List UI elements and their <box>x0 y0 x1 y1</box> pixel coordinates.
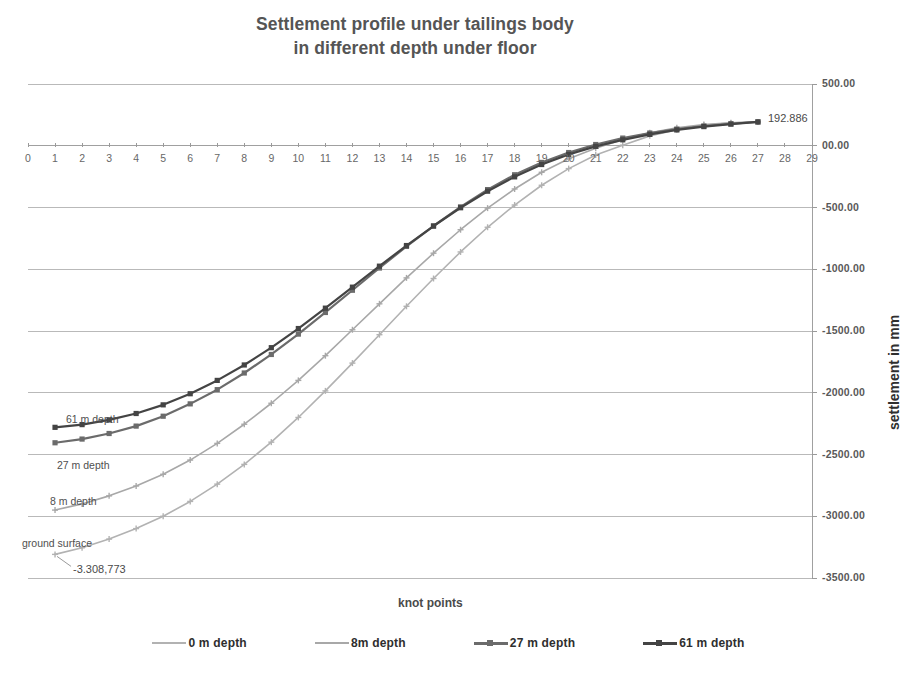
series-marker <box>242 362 247 367</box>
series-line <box>55 122 758 427</box>
series-marker <box>161 414 166 419</box>
series-line <box>55 122 758 443</box>
x-axis-tick-label: 24 <box>667 152 687 164</box>
y-axis-tick-label: -500.00 <box>822 201 859 213</box>
series-annotation: 27 m depth <box>57 459 110 471</box>
series-marker <box>323 306 328 311</box>
annotation-leader-line <box>57 556 71 566</box>
y-axis-tick-label: 500.00 <box>822 77 855 89</box>
series-marker <box>485 189 490 194</box>
legend-key-icon <box>152 637 186 649</box>
series-marker <box>593 144 598 149</box>
series-marker <box>52 507 58 513</box>
x-axis-tick-label: 14 <box>396 152 416 164</box>
series-3 <box>52 119 760 445</box>
data-point-label: 192.886 <box>768 112 808 124</box>
series-marker <box>188 391 193 396</box>
series-marker <box>377 264 382 269</box>
legend-key-icon <box>315 637 349 649</box>
series-marker <box>458 205 463 210</box>
x-axis-tick-label: 17 <box>478 152 498 164</box>
series-marker <box>107 431 112 436</box>
series-layer <box>52 119 761 557</box>
x-axis-tick-label: 2 <box>72 152 92 164</box>
x-axis-tick-label: 6 <box>180 152 200 164</box>
series-4 <box>52 119 760 430</box>
series-marker <box>269 352 274 357</box>
series-marker <box>728 122 733 127</box>
x-axis-tick-label: 18 <box>505 152 525 164</box>
x-axis-tick-label: 9 <box>261 152 281 164</box>
series-marker <box>620 142 626 148</box>
legend-key-icon <box>474 637 508 649</box>
y-axis-tick-label: -1000.00 <box>822 262 865 274</box>
series-marker <box>160 513 166 519</box>
series-annotation: 8 m depth <box>50 495 97 507</box>
annotation-leader-lines <box>57 556 71 566</box>
x-axis-tick-label: 7 <box>207 152 227 164</box>
series-marker <box>647 132 652 137</box>
series-marker <box>133 526 139 532</box>
x-axis-tick-label: 28 <box>775 152 795 164</box>
series-marker <box>106 493 112 499</box>
x-axis-tickmarks <box>28 143 812 147</box>
x-axis-tick-label: 25 <box>694 152 714 164</box>
y-axis-tick-label: -1500.00 <box>822 324 865 336</box>
series-marker <box>620 137 625 142</box>
series-marker <box>79 436 84 441</box>
series-marker <box>134 423 139 428</box>
series-marker <box>431 223 436 228</box>
y-axis-tick-label: -3000.00 <box>822 509 865 521</box>
series-marker <box>404 243 409 248</box>
x-axis-tick-label: 22 <box>613 152 633 164</box>
series-marker <box>296 331 301 336</box>
legend-item-4[interactable]: 61 m depth <box>643 636 744 650</box>
x-axis-tick-label: 15 <box>424 152 444 164</box>
series-marker <box>188 401 193 406</box>
series-marker <box>106 536 112 542</box>
x-axis-tick-label: 13 <box>369 152 389 164</box>
x-axis-tick-label: 0 <box>18 152 38 164</box>
x-axis-tick-label: 26 <box>721 152 741 164</box>
y-axis-tick-label: -2500.00 <box>822 448 865 460</box>
x-axis-tick-label: 12 <box>342 152 362 164</box>
legend-label: 61 m depth <box>679 636 744 650</box>
series-marker <box>296 326 301 331</box>
series-marker <box>161 402 166 407</box>
series-marker <box>701 124 706 129</box>
data-point-label: -3.308,773 <box>73 563 126 575</box>
x-axis-tick-label: 19 <box>532 152 552 164</box>
legend-item-2[interactable]: 8m depth <box>315 636 406 650</box>
x-axis-tick-label: 1 <box>45 152 65 164</box>
series-marker <box>512 174 517 179</box>
legend-item-3[interactable]: 27 m depth <box>474 636 575 650</box>
y-axis-title: settlement in mm <box>886 315 902 430</box>
x-axis-tick-label: 16 <box>451 152 471 164</box>
x-axis-tick-label: 5 <box>153 152 173 164</box>
y-axis-tick-label: -2000.00 <box>822 386 865 398</box>
x-axis-tick-label: 3 <box>99 152 119 164</box>
legend-key-icon <box>643 637 677 649</box>
x-axis-tick-label: 23 <box>640 152 660 164</box>
legend-label: 27 m depth <box>510 636 575 650</box>
x-axis-tick-label: 20 <box>559 152 579 164</box>
x-axis-tick-label: 4 <box>126 152 146 164</box>
series-annotation: ground surface <box>22 537 92 549</box>
series-marker <box>160 471 166 477</box>
series-2 <box>52 119 761 513</box>
legend-label: 0 m depth <box>188 636 246 650</box>
series-marker <box>674 127 679 132</box>
y-axis-tick-label: -3500.00 <box>822 571 865 583</box>
series-marker <box>134 411 139 416</box>
series-1 <box>52 119 761 557</box>
series-marker <box>215 378 220 383</box>
series-marker <box>52 440 57 445</box>
x-axis-tick-label: 21 <box>586 152 606 164</box>
legend-label: 8m depth <box>351 636 406 650</box>
legend-item-1[interactable]: 0 m depth <box>152 636 246 650</box>
series-marker <box>133 483 139 489</box>
series-line <box>55 122 758 554</box>
series-marker <box>242 370 247 375</box>
